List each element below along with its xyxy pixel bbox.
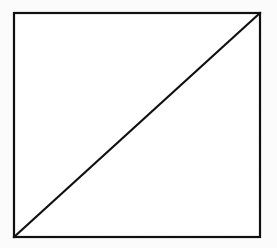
geometry-figure [0, 0, 277, 248]
figure-canvas [0, 0, 277, 248]
